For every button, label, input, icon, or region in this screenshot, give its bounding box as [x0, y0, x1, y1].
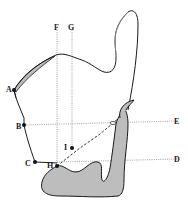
- label-A: A: [6, 85, 12, 94]
- label-D: D: [174, 155, 180, 164]
- label-B: B: [16, 122, 22, 131]
- point-C: [33, 160, 37, 164]
- label-I: I: [64, 143, 67, 152]
- label-F: F: [54, 23, 59, 32]
- label-C: C: [25, 159, 31, 168]
- point-H: [55, 164, 59, 168]
- skull-outline: [14, 11, 138, 110]
- label-H: H: [47, 161, 54, 170]
- label-G: G: [68, 23, 74, 32]
- label-E: E: [174, 117, 179, 126]
- point-B: [22, 123, 26, 127]
- frontal-strip: [14, 56, 55, 92]
- reference-lines: [24, 30, 178, 168]
- cephalometric-diagram: A B C H I F G E D: [0, 0, 188, 210]
- point-I: [70, 146, 74, 150]
- point-A: [12, 88, 16, 92]
- condyle-small: [110, 122, 116, 125]
- line-B-E: [24, 121, 178, 125]
